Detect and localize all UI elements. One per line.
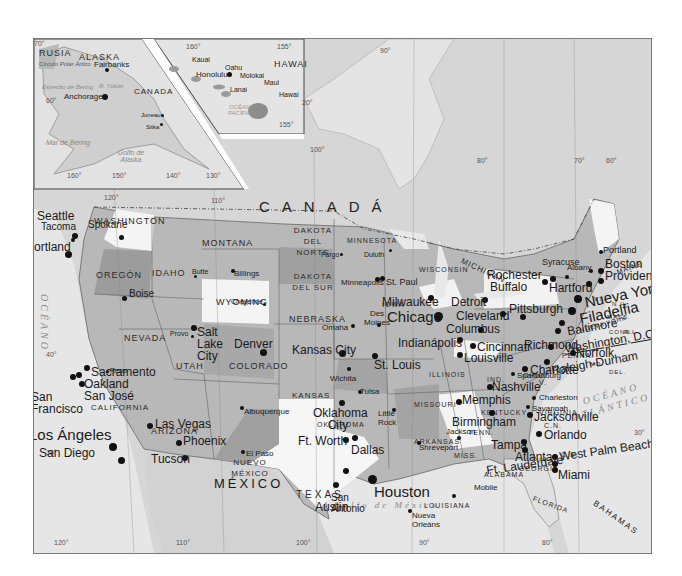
island-lanai: Lanai <box>230 86 247 93</box>
city-dot-cheyenne <box>263 303 266 306</box>
city-columbus: Columbus <box>446 323 500 335</box>
deg-80-bottom: 80° <box>542 539 553 546</box>
deg-70: 70° <box>574 157 585 164</box>
city-dot-san-francisco <box>70 374 76 380</box>
city-dot-new-york <box>574 295 582 303</box>
state-minnesota: MINNESOTA <box>347 237 397 244</box>
city-minneapolis: Minneapolis <box>341 279 384 287</box>
deg-110-top: 110° <box>211 197 225 204</box>
city-dot-sacramento <box>84 365 90 371</box>
deg-100-top: 100° <box>310 146 324 153</box>
city-dot-savannah <box>526 405 530 409</box>
city-butte: Butte <box>192 268 208 275</box>
state-louisiana: LOUISIANA <box>424 502 470 509</box>
label-russia: RUSIA <box>39 49 72 58</box>
label-pacific-ocean: OCÉANO <box>39 294 49 352</box>
deg-hawaii-155-top: 155° <box>277 43 291 50</box>
city-dot-jacksonville <box>527 412 533 418</box>
deg-lat-30-east: 30° <box>634 429 645 436</box>
city-dot-las-vegas <box>147 423 153 429</box>
state-mississippi: MISS. <box>454 452 478 459</box>
city-boise: Boise <box>129 289 154 299</box>
city-tacoma: Tacoma <box>41 222 76 232</box>
city-chicago: Chicago <box>387 309 442 324</box>
city-birmingham: Birmingham <box>452 416 516 428</box>
city-salt-lake-city: Salt Lake City <box>197 326 231 362</box>
state-kansas: KANSAS <box>292 392 330 400</box>
city-los-angeles: Los Ángeles <box>33 427 112 442</box>
city-san-antonio: San Antonio <box>331 492 371 514</box>
city-san-francisco: San Francisco <box>33 391 91 415</box>
city-shreveport: Shreveport <box>419 444 458 452</box>
city-tucson: Tucson <box>151 453 190 465</box>
city-richmond: Richmond <box>524 339 578 351</box>
label-canada: CANADÁ <box>259 199 394 214</box>
state-california: CALIFORNIA <box>91 404 149 412</box>
state-wisconsin: WISCONSIN <box>419 266 468 273</box>
city-dot-mobile <box>452 494 456 498</box>
city-el-paso: El Paso <box>246 450 274 458</box>
deg-90-bottom: 90° <box>419 539 430 546</box>
city-jackson: Jackson <box>446 428 475 436</box>
city-dot-oakland <box>76 372 82 378</box>
city-dot-syracuse <box>565 275 569 279</box>
label-canada-inset: CANADA <box>134 88 173 96</box>
deg-60: 60° <box>606 157 617 164</box>
state-colorado: COLORADO <box>229 362 289 371</box>
city-pittsburgh: Pittsburgh <box>509 303 563 315</box>
deg-90-top: 90° <box>380 47 391 54</box>
city-dot-phoenix <box>176 440 182 446</box>
state-illinois: ILLINOIS <box>429 371 466 378</box>
city-st-paul: St. Paul <box>386 278 418 287</box>
city-albany: Albany <box>567 264 591 272</box>
city-cleveland: Cleveland <box>456 310 509 322</box>
deg-120-bottom: 120° <box>54 539 68 546</box>
city-dot-juneau <box>161 114 164 117</box>
city-duluth: Duluth <box>364 251 384 258</box>
city-miami: Miami <box>558 469 590 481</box>
city-spartanburg: Spartanburg <box>517 372 561 380</box>
city-dot-boise <box>122 296 127 301</box>
city-dot-honolulu <box>227 72 232 77</box>
deg-120-top: 120° <box>104 194 118 201</box>
city-houston: Houston <box>374 484 430 499</box>
state-oregon: OREGÓN <box>96 271 142 280</box>
city-dot-spartanburg <box>511 372 515 376</box>
state-idaho: IDAHO <box>152 269 186 278</box>
city-detroit: Detroit <box>451 296 486 308</box>
city-dot-el-paso <box>241 450 245 454</box>
city-fargo: Fargo <box>321 251 339 258</box>
city-honolulu: Honolulu <box>196 71 228 79</box>
city-sitka: Sitka <box>146 124 159 130</box>
deg-alaska-130: 130° <box>206 172 220 179</box>
deg-alaska-140: 140° <box>166 172 180 179</box>
city-buffalo: Buffalo <box>490 281 527 293</box>
city-dot-dallas <box>352 435 358 441</box>
label-pacific-inset: OCÉANO PACÍFICO <box>222 104 262 116</box>
deg-lat-40: 40° <box>46 351 57 358</box>
city-juneau: Juneau <box>141 112 161 118</box>
island-hawaii: Hawai <box>279 91 298 98</box>
label-gulf-alaska: Golfo de Alaska <box>116 149 146 163</box>
city-tampa: Tampa <box>491 439 527 451</box>
city-san-diego: San Diego <box>39 447 95 459</box>
state-missouri: MISSOURI <box>414 401 457 408</box>
city-dot-provo <box>191 335 194 338</box>
city-dot-tacoma <box>71 238 75 242</box>
city-orlando: Orlando <box>544 429 587 441</box>
city-dot-los-angeles <box>109 443 117 451</box>
state-nevada: NEVADA <box>124 334 166 343</box>
city-dot-buffalo <box>542 279 548 285</box>
city-anchorage: Anchorage <box>64 93 103 101</box>
city-dot-louisville <box>457 352 463 358</box>
deg-80-top: 80° <box>477 157 488 164</box>
city-provo: Provo <box>170 330 188 337</box>
city-kansas-city: Kansas City <box>292 344 356 356</box>
city-rochester: Rochester <box>487 269 542 281</box>
city-dot-fargo <box>340 253 343 256</box>
city-dot-wichita <box>347 367 351 371</box>
city-albuquerque: Albuquerque <box>244 408 289 416</box>
city-denver: Denver <box>234 338 273 350</box>
city-dot-san-jose <box>79 381 85 387</box>
city-spokane: Spokane <box>88 220 127 230</box>
